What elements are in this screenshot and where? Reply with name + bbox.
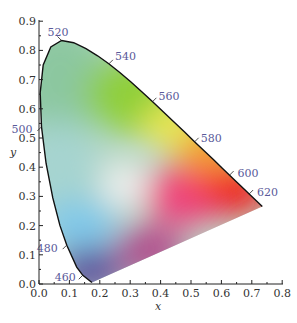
x-axis-title: x xyxy=(155,300,162,313)
y-tick-label: 0.8 xyxy=(19,44,37,57)
wavelength-label-560: 560 xyxy=(158,90,179,103)
wavelength-label-460: 460 xyxy=(55,271,76,284)
y-tick-label: 0.1 xyxy=(19,249,37,262)
x-tick-label: 0.7 xyxy=(243,287,261,300)
y-tick-label: 0.2 xyxy=(19,220,37,233)
x-tick-label: 0.3 xyxy=(121,287,139,300)
color-gamut-fill xyxy=(0,0,297,323)
x-tick-label: 0.1 xyxy=(61,287,79,300)
wavelength-label-540: 540 xyxy=(115,50,136,63)
x-tick-label: 0.6 xyxy=(213,287,231,300)
x-tick-label: 0.8 xyxy=(273,287,291,300)
wavelength-label-520: 520 xyxy=(47,26,68,39)
y-tick-label: 0.7 xyxy=(19,74,37,87)
wavelength-label-600: 600 xyxy=(238,167,259,180)
y-tick-label: 0.0 xyxy=(19,278,37,291)
y-tick-label: 0.9 xyxy=(19,15,37,28)
x-tick-label: 0.2 xyxy=(91,287,109,300)
wavelength-label-580: 580 xyxy=(201,132,222,145)
wavelength-label-620: 620 xyxy=(257,186,278,199)
y-axis-title: y xyxy=(9,146,17,159)
x-tick-label: 0.4 xyxy=(152,287,170,300)
x-axis: 0.00.10.20.30.40.50.60.70.8 x xyxy=(30,280,291,313)
wavelength-label-480: 480 xyxy=(37,242,58,255)
x-tick-label: 0.5 xyxy=(182,287,200,300)
chromaticity-diagram: 460480500520540560580600620 0.00.10.20.3… xyxy=(0,0,297,323)
y-tick-label: 0.5 xyxy=(19,132,37,145)
y-tick-label: 0.3 xyxy=(19,190,37,203)
y-tick-label: 0.4 xyxy=(19,161,37,174)
y-tick-label: 0.6 xyxy=(19,103,37,116)
